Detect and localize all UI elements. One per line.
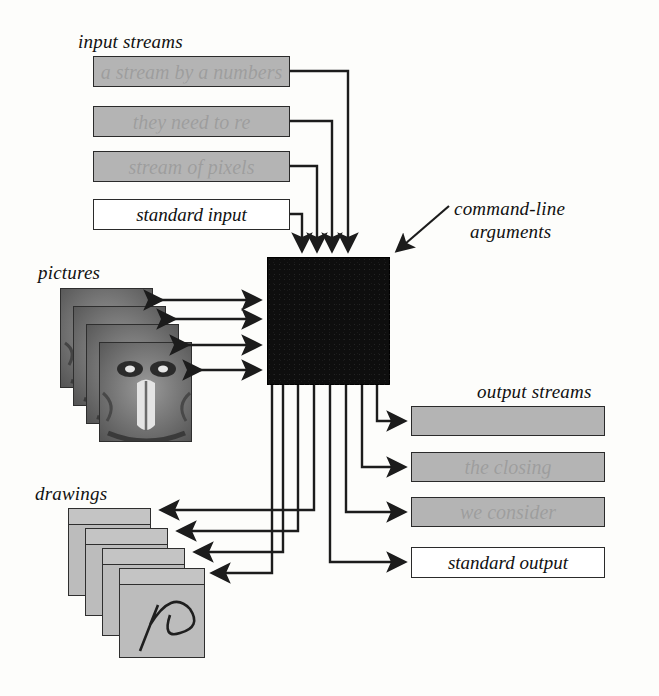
wire-output-1 bbox=[377, 385, 403, 421]
wire-input-2 bbox=[290, 121, 332, 249]
wire-input-3 bbox=[290, 166, 317, 249]
connector-wires bbox=[0, 0, 659, 696]
wire-drawing-1 bbox=[163, 385, 314, 510]
wire-standard-input bbox=[290, 214, 302, 249]
wire-drawing-3 bbox=[197, 385, 283, 552]
wire-output-3 bbox=[346, 385, 403, 512]
wire-standard-output bbox=[330, 385, 403, 562]
wire-output-2 bbox=[362, 385, 403, 467]
wire-input-1 bbox=[290, 71, 348, 249]
diagram-canvas: input streams pictures drawings output s… bbox=[0, 0, 659, 696]
wire-command-line-arguments bbox=[398, 206, 449, 250]
wire-drawing-4 bbox=[214, 385, 272, 573]
